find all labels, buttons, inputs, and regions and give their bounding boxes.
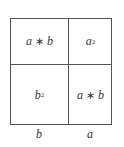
cell-top-right-square: a2	[69, 19, 112, 64]
column-label-left: b	[10, 127, 68, 142]
column-label-right: a	[68, 127, 112, 142]
factor-b: b	[47, 34, 53, 49]
multiply-operator: ∗	[35, 35, 44, 48]
factor-b: b	[98, 88, 104, 103]
cell-top-left-product: a ∗ b	[11, 19, 68, 64]
factor-a: a	[77, 88, 83, 103]
area-model-square: a ∗ b a2 b2 a ∗ b	[10, 18, 112, 125]
factor-a: a	[26, 34, 32, 49]
square-exponent: 2	[92, 38, 96, 46]
multiply-operator: ∗	[86, 89, 95, 102]
cell-bottom-left-square: b2	[11, 65, 68, 125]
square-exponent: 2	[41, 91, 45, 99]
cell-bottom-right-product: a ∗ b	[69, 65, 112, 125]
